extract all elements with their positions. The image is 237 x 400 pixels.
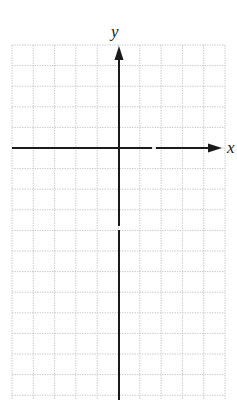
- x-axis-arrow-icon: [208, 144, 222, 153]
- x-axis-label: x: [226, 138, 235, 157]
- y-axis-label: y: [109, 22, 119, 41]
- y-axis-arrow-icon: [115, 46, 124, 60]
- coordinate-plane: y x: [0, 0, 237, 400]
